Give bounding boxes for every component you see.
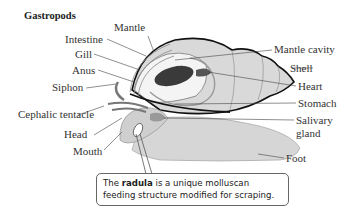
label-gland: gland bbox=[296, 128, 320, 139]
label-salivary: Salivary bbox=[296, 115, 333, 126]
label-gill: Gill bbox=[75, 49, 92, 60]
label-shell: Shell bbox=[290, 63, 313, 74]
label-foot: Foot bbox=[286, 153, 306, 164]
callout-line-1: The radula is a unique molluscan bbox=[103, 177, 282, 189]
callout-line-2: feeding structure modified for scraping. bbox=[103, 189, 282, 201]
label-mantle: Mantle bbox=[114, 22, 145, 33]
label-head: Head bbox=[64, 129, 87, 140]
label-mantle-cavity: Mantle cavity bbox=[274, 44, 335, 55]
siphon-shape bbox=[116, 82, 124, 100]
label-stomach: Stomach bbox=[298, 98, 337, 109]
label-heart: Heart bbox=[298, 81, 322, 92]
radula-callout: The radula is a unique molluscan feeding… bbox=[96, 173, 289, 206]
label-intestine: Intestine bbox=[65, 34, 103, 45]
label-anus: Anus bbox=[72, 65, 95, 76]
label-mouth: Mouth bbox=[73, 146, 102, 157]
diagram-title: Gastropods bbox=[24, 10, 76, 21]
label-siphon: Siphon bbox=[52, 82, 83, 93]
label-cephalic-tentacle: Cephalic tentacle bbox=[18, 109, 94, 120]
callout-term-radula: radula bbox=[122, 178, 153, 188]
